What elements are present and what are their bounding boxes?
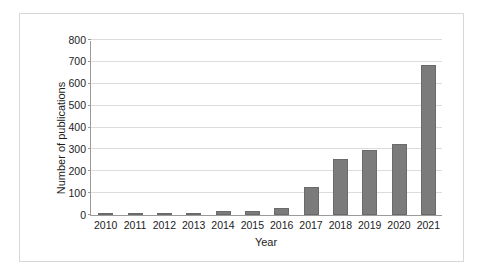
- y-tick-label-500: 500: [68, 100, 86, 111]
- y-tick-label-600: 600: [68, 79, 86, 90]
- gridline-400: [91, 127, 442, 128]
- gridline-300: [91, 148, 442, 149]
- y-tick-mark-200: [88, 170, 91, 171]
- y-tick-mark-800: [88, 39, 91, 40]
- y-tick-mark-0: [88, 214, 91, 215]
- x-tick-label-2021: 2021: [417, 220, 440, 231]
- gridline-100: [91, 192, 442, 193]
- bar-2012: [157, 213, 172, 215]
- y-tick-label-800: 800: [68, 35, 86, 46]
- bar-2013: [186, 213, 201, 215]
- plot-area: 0100200300400500600700800201020112012201…: [90, 41, 442, 216]
- y-tick-label-400: 400: [68, 122, 86, 133]
- y-tick-label-100: 100: [68, 188, 86, 199]
- y-tick-mark-700: [88, 61, 91, 62]
- y-tick-mark-100: [88, 192, 91, 193]
- x-tick-label-2014: 2014: [211, 220, 234, 231]
- bar-2021: [421, 65, 436, 215]
- x-tick-label-2018: 2018: [329, 220, 352, 231]
- x-tick-label-2016: 2016: [270, 220, 293, 231]
- gridline-600: [91, 83, 442, 84]
- y-tick-label-700: 700: [68, 57, 86, 68]
- x-tick-label-2020: 2020: [387, 220, 410, 231]
- x-tick-label-2011: 2011: [124, 220, 147, 231]
- gridline-700: [91, 61, 442, 62]
- gridline-200: [91, 170, 442, 171]
- x-tick-label-2017: 2017: [299, 220, 322, 231]
- y-tick-label-300: 300: [68, 144, 86, 155]
- x-axis-title: Year: [90, 236, 442, 248]
- x-tick-label-2015: 2015: [241, 220, 264, 231]
- y-tick-mark-600: [88, 83, 91, 84]
- x-tick-label-2019: 2019: [358, 220, 381, 231]
- bar-2011: [128, 213, 143, 215]
- bar-2015: [245, 211, 260, 215]
- chart-figure: 0100200300400500600700800201020112012201…: [19, 13, 464, 262]
- bar-2010: [98, 213, 113, 215]
- y-tick-mark-400: [88, 127, 91, 128]
- y-tick-label-200: 200: [68, 166, 86, 177]
- y-tick-mark-300: [88, 148, 91, 149]
- gridline-800: [91, 39, 442, 40]
- y-tick-label-0: 0: [80, 210, 86, 221]
- bar-2017: [304, 187, 319, 215]
- bar-2016: [274, 208, 289, 215]
- bar-2020: [392, 144, 407, 215]
- bar-2018: [333, 159, 348, 215]
- gridline-500: [91, 105, 442, 106]
- y-tick-mark-500: [88, 105, 91, 106]
- x-tick-label-2013: 2013: [182, 220, 205, 231]
- y-axis-title: Number of publications: [55, 50, 67, 225]
- gridline-0: [91, 214, 442, 215]
- bar-2014: [216, 211, 231, 215]
- x-tick-label-2010: 2010: [94, 220, 117, 231]
- bar-2019: [362, 150, 377, 215]
- x-tick-label-2012: 2012: [153, 220, 176, 231]
